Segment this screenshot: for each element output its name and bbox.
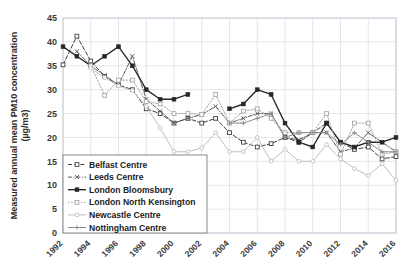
data-point-marker [75, 34, 79, 38]
data-point-marker [283, 121, 287, 125]
x-tick-label: 1998 [127, 238, 148, 259]
x-tick-label: 2006 [238, 238, 259, 259]
data-point-marker [269, 116, 273, 120]
data-point-marker [89, 66, 93, 70]
data-point-marker [172, 150, 176, 154]
x-tick-label: 2004 [210, 238, 231, 259]
data-point-marker [394, 179, 398, 183]
data-point-marker [283, 147, 287, 151]
data-point-marker [366, 121, 370, 125]
x-tick-label: 1994 [72, 238, 93, 259]
legend-label: London North Kensington [89, 197, 195, 207]
data-point-marker [311, 145, 315, 149]
data-point-marker [103, 94, 107, 98]
data-point-marker [311, 159, 315, 163]
y-tick-label: 5 [52, 204, 57, 214]
data-point-marker [214, 116, 218, 120]
data-point-marker [117, 45, 121, 49]
data-point-marker [380, 140, 384, 144]
data-point-marker [172, 112, 176, 116]
legend-label: Newcastle Centre [89, 210, 161, 220]
data-point-marker [200, 146, 204, 150]
y-tick-label: 30 [47, 85, 57, 95]
data-point-marker [325, 143, 329, 147]
data-point-marker [117, 84, 121, 88]
series-leeds-centre [75, 49, 398, 154]
data-point-marker [144, 100, 148, 104]
x-tick-label: 2010 [294, 238, 315, 259]
data-point-marker [214, 131, 218, 135]
data-point-marker [366, 145, 370, 149]
y-tick-label: 20 [47, 133, 57, 143]
y-tick-label: 25 [47, 109, 57, 119]
data-point-marker [103, 54, 107, 58]
data-point-marker [255, 107, 259, 111]
data-point-marker [394, 136, 398, 140]
legend-label: Belfast Centre [89, 160, 147, 170]
data-point-marker [144, 104, 148, 108]
data-point-marker [241, 121, 245, 125]
data-point-marker [283, 131, 287, 135]
x-tick-label: 2012 [321, 238, 342, 259]
data-point-marker [394, 155, 398, 159]
data-point-marker [214, 93, 218, 97]
data-point-marker [75, 213, 79, 217]
data-point-marker [352, 167, 356, 171]
data-point-marker [75, 200, 79, 204]
data-point-marker [241, 102, 245, 106]
data-point-marker [339, 157, 343, 161]
data-point-marker [269, 93, 273, 97]
data-point-marker [214, 104, 218, 108]
pm10-line-chart: 051015202530354045 199219941996199820002… [0, 0, 408, 275]
data-point-marker [172, 97, 176, 101]
x-tick-label: 2014 [349, 238, 370, 259]
data-point-marker [366, 174, 370, 178]
x-tick-label: 2016 [377, 238, 398, 259]
data-point-marker [75, 54, 79, 58]
y-axis-tick-labels: 051015202530354045 [47, 13, 57, 238]
y-tick-label: 15 [47, 157, 57, 167]
data-point-marker [130, 89, 134, 93]
x-tick-label: 2008 [266, 238, 287, 259]
data-point-marker [269, 159, 273, 163]
x-tick-label: 2002 [183, 238, 204, 259]
legend-label: Nottingham Centre [89, 223, 167, 233]
data-point-marker [75, 188, 79, 192]
data-point-marker [255, 136, 259, 140]
data-point-marker [61, 63, 65, 67]
data-point-marker [200, 113, 204, 117]
y-tick-label: 10 [47, 180, 57, 190]
data-point-marker [158, 97, 162, 101]
y-axis-title-line: (µg/m3) [20, 109, 30, 141]
data-point-marker [130, 78, 134, 82]
legend-label: London Bloomsbury [89, 185, 173, 195]
y-tick-label: 45 [47, 13, 57, 23]
x-tick-label: 1992 [44, 238, 65, 259]
data-point-marker [61, 45, 65, 49]
data-point-marker [380, 157, 384, 161]
data-point-marker [241, 150, 245, 154]
data-point-marker [255, 116, 259, 120]
data-point-marker [297, 140, 301, 144]
data-point-marker [75, 163, 79, 167]
data-point-marker [352, 145, 356, 149]
x-tick-label: 2000 [155, 238, 176, 259]
y-tick-label: 35 [47, 61, 57, 71]
data-point-marker [186, 112, 190, 116]
data-point-marker [352, 121, 356, 125]
data-point-marker [117, 78, 121, 82]
series-line [63, 47, 188, 100]
data-point-marker [186, 93, 190, 97]
chart-container: 051015202530354045 199219941996199820002… [0, 0, 408, 275]
data-point-marker [255, 88, 259, 92]
data-point-marker [228, 107, 232, 111]
x-tick-label: 1996 [99, 238, 120, 259]
data-point-marker [255, 145, 259, 149]
data-point-marker [228, 131, 232, 135]
data-point-marker [380, 162, 384, 166]
data-point-marker [228, 150, 232, 154]
data-point-marker [200, 121, 204, 125]
data-point-marker [130, 64, 134, 68]
data-point-marker [158, 102, 162, 106]
data-point-marker [75, 49, 79, 53]
